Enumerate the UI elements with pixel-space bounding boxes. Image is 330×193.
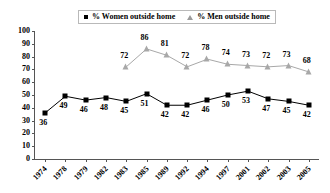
x-axis-tick [167,159,168,162]
data-point-women [43,110,48,115]
x-axis-tick-label: 1979 [72,165,89,182]
square-marker-icon [84,15,88,19]
data-point-women [185,103,190,108]
x-axis-tick [309,159,310,162]
data-point-women [104,95,109,100]
y-axis-tick-label: 80 [22,53,30,61]
x-axis-tick [248,159,249,162]
data-label-men: 78 [201,44,209,52]
data-label-men: 72 [181,52,189,60]
data-label-women: 42 [181,111,189,119]
data-label-men: 86 [141,34,149,42]
x-axis-tick-label: 1997 [214,165,231,182]
x-axis-tick [147,159,148,162]
data-point-men [245,62,251,68]
chart-legend: % Women outside home % Men outside home [78,10,276,24]
x-axis-tick [65,159,66,162]
x-axis-tick-label: 2002 [255,165,272,182]
legend-item-men: % Men outside home [187,13,270,21]
data-point-women [124,99,129,104]
y-axis-tick [32,159,35,160]
y-axis-tick [32,44,35,45]
x-axis-tick [86,159,87,162]
x-axis-tick-label: 1974 [32,165,49,182]
x-axis-tick-label: 1992 [174,165,191,182]
y-axis-tick-label: 90 [22,40,30,48]
data-label-women: 50 [222,101,230,109]
x-axis-tick-label: 2003 [275,165,292,182]
data-point-women [205,98,210,103]
x-axis-tick-label: 2005 [296,165,313,182]
legend-label-men: % Men outside home [197,13,270,21]
data-label-men: 68 [303,57,311,65]
y-axis-tick-label: 10 [22,142,30,150]
data-label-women: 46 [80,106,88,114]
line-chart: % Women outside home % Men outside home … [0,0,330,193]
data-point-women [164,103,169,108]
data-label-men: 73 [242,51,250,59]
x-axis-tick-label: 1994 [194,165,211,182]
data-point-men [285,62,291,68]
data-label-men: 74 [222,49,230,57]
y-axis-tick-label: 100 [18,27,30,35]
x-axis-tick-label: 1989 [154,165,171,182]
y-axis-tick [32,121,35,122]
data-label-women: 47 [262,105,270,113]
y-axis-tick-label: 60 [22,78,30,86]
x-axis-tick-label: 1982 [93,165,110,182]
data-point-women [83,98,88,103]
data-label-men: 72 [262,52,270,60]
data-point-men [305,68,311,74]
x-axis-tick-label: 1985 [133,165,150,182]
y-axis-tick-label: 50 [22,91,30,99]
x-axis-tick [207,159,208,162]
x-axis-tick [106,159,107,162]
data-label-men: 81 [161,40,169,48]
data-label-women: 42 [303,111,311,119]
x-axis-tick [187,159,188,162]
data-point-men [184,63,190,69]
data-point-women [266,96,271,101]
y-axis-tick-label: 0 [26,155,30,163]
data-point-men [143,45,149,51]
y-axis-tick [32,82,35,83]
y-axis-tick [32,108,35,109]
x-axis-tick [268,159,269,162]
legend-item-women: % Women outside home [84,13,175,21]
data-label-women: 48 [100,104,108,112]
y-axis-tick-label: 40 [22,104,30,112]
y-axis-tick [32,57,35,58]
data-label-women: 36 [39,119,47,127]
legend-label-women: % Women outside home [92,13,175,21]
data-point-women [246,89,251,94]
data-point-men [204,56,210,62]
series-line-men [126,49,309,72]
data-label-men: 72 [120,52,128,60]
y-axis-tick-label: 70 [22,65,30,73]
data-point-women [286,99,291,104]
y-axis-tick [32,133,35,134]
x-axis-tick [45,159,46,162]
triangle-marker-icon [187,15,193,20]
x-axis-tick-label: 1983 [113,165,130,182]
y-axis-tick [32,146,35,147]
y-axis-tick-label: 20 [22,129,30,137]
data-point-men [163,52,169,58]
x-axis-tick [289,159,290,162]
data-label-women: 42 [161,111,169,119]
plot-area: 0102030405060708090100 19741978197919821… [34,31,319,160]
data-point-men [123,63,129,69]
data-point-men [224,61,230,67]
data-label-women: 49 [59,102,67,110]
data-label-women: 53 [242,97,250,105]
x-axis-tick-label: 1978 [52,165,69,182]
y-axis-tick-label: 30 [22,117,30,125]
data-label-men: 73 [283,51,291,59]
x-axis-tick [126,159,127,162]
y-axis-tick [32,31,35,32]
data-point-women [306,103,311,108]
data-label-women: 51 [141,100,149,108]
data-point-women [225,93,230,98]
y-axis-tick [32,95,35,96]
x-axis-tick-label: 2001 [235,165,252,182]
